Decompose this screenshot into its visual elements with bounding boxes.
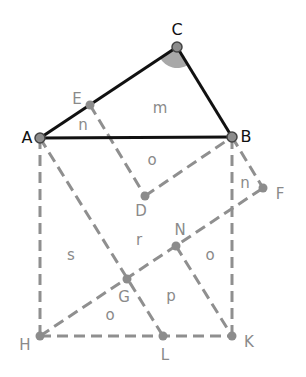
triangle-abc xyxy=(40,47,232,138)
segment-a-c xyxy=(40,47,177,138)
label-point-d: D xyxy=(135,204,147,219)
point-d xyxy=(141,192,150,201)
region-label-n-2: n xyxy=(240,176,250,191)
region-label-n-1: n xyxy=(78,118,88,133)
segment-n-k xyxy=(176,246,232,336)
label-point-a: A xyxy=(22,130,33,146)
segment-c-b xyxy=(177,47,232,137)
region-label-o-3: o xyxy=(105,308,114,323)
point-g xyxy=(123,275,132,284)
region-label-r: r xyxy=(136,233,142,248)
region-label-p: p xyxy=(166,289,176,304)
label-point-c: C xyxy=(171,22,182,38)
label-point-n: N xyxy=(174,223,185,238)
label-point-f: F xyxy=(276,187,285,202)
label-point-g: G xyxy=(118,290,130,305)
point-e xyxy=(86,101,95,110)
region-label-o-2: o xyxy=(205,248,214,263)
segment-a-b xyxy=(40,137,232,138)
geometry-diagram xyxy=(0,0,306,377)
label-point-k: K xyxy=(244,335,254,350)
segment-d-b xyxy=(145,137,232,196)
label-point-h: H xyxy=(19,338,30,353)
point-l xyxy=(159,332,168,341)
region-label-m: m xyxy=(153,101,168,116)
segment-a-l xyxy=(40,138,163,336)
segment-e-d xyxy=(90,105,145,196)
point-c xyxy=(172,42,182,52)
point-k xyxy=(228,332,237,341)
label-point-l: L xyxy=(161,348,169,363)
region-label-s: s xyxy=(67,248,75,263)
point-a xyxy=(35,133,45,143)
point-n xyxy=(172,242,181,251)
label-point-e: E xyxy=(72,92,81,107)
label-point-b: B xyxy=(241,129,252,145)
region-label-o-1: o xyxy=(147,153,156,168)
point-f xyxy=(259,184,268,193)
point-h xyxy=(36,332,45,341)
point-b xyxy=(227,132,237,142)
